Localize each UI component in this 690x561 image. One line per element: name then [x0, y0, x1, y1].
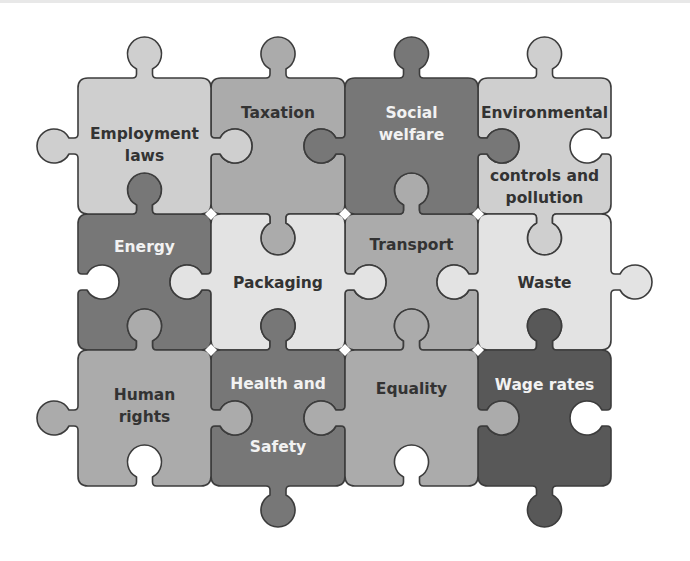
puzzle-diagram	[0, 0, 690, 561]
